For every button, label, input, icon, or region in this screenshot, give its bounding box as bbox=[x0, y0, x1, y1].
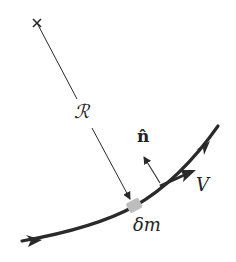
normal-vector-arrow bbox=[144, 157, 160, 183]
mass-element-label: δm bbox=[133, 216, 161, 234]
streamline-curve bbox=[22, 126, 218, 241]
velocity-label: V bbox=[196, 176, 209, 194]
streamline-diagram bbox=[0, 0, 236, 262]
radius-label: ℛ bbox=[74, 102, 89, 121]
normal-label: n̂ bbox=[137, 128, 149, 145]
